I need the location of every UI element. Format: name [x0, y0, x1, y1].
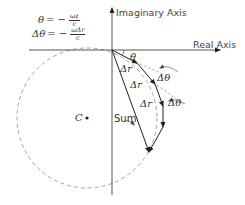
delta-r-label-3: Δr — [140, 99, 152, 109]
equation-delta-theta-lhs: Δθ — [32, 29, 45, 39]
delta-r-label-1: Δr — [120, 64, 132, 74]
equation-delta-theta-denominator: c — [76, 35, 80, 42]
delta-theta-label-2: Δθ — [168, 98, 181, 108]
center-label: C — [75, 113, 83, 123]
theta-label: θ — [130, 52, 136, 62]
delta-r-vector-5 — [149, 127, 163, 152]
imaginary-axis-label: Imaginary Axis — [116, 8, 187, 18]
sum-label: Sum — [114, 114, 136, 124]
equation-theta-lhs: θ — [38, 15, 44, 25]
real-axis-label: Real Axis — [193, 40, 236, 50]
phasor-diagram: Imaginary Axis Real Axis θ = − ωz c Δθ =… — [0, 0, 245, 205]
delta-theta-label-1: Δθ — [157, 73, 170, 83]
equation-theta: θ = − ωz c — [38, 13, 80, 27]
theta-arc — [122, 50, 124, 56]
delta-r-vector-3 — [155, 84, 163, 106]
delta-r-label-2: Δr — [130, 80, 142, 90]
equation-delta-theta-op: = − — [47, 29, 67, 39]
equation-delta-theta: Δθ = − ωΔr c — [32, 27, 85, 41]
center-dot — [85, 116, 88, 119]
equation-theta-fraction: ωz c — [69, 13, 80, 27]
equation-delta-theta-fraction: ωΔr c — [70, 27, 85, 41]
equation-theta-op: = − — [46, 15, 66, 25]
